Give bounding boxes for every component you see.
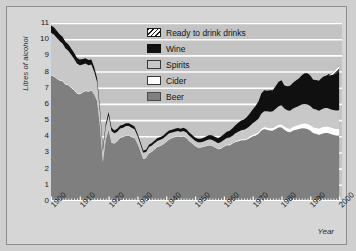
y-tick-label: 5 xyxy=(25,116,49,124)
y-tick-label: 11 xyxy=(25,19,49,27)
grey-swatch-icon xyxy=(147,92,161,101)
chart-legend: Ready to drink drinks Wine Spirits Cider… xyxy=(147,25,297,105)
legend-label: Beer xyxy=(166,92,184,102)
y-tick-label: 6 xyxy=(25,100,49,108)
legend-item-beer: Beer xyxy=(147,89,297,104)
x-axis-title: Year xyxy=(318,227,334,236)
legend-item-ready-to-drink-drinks: Ready to drink drinks xyxy=(147,25,297,40)
y-tick-label: 4 xyxy=(25,132,49,140)
hatched-swatch-icon xyxy=(147,28,161,37)
legend-item-wine: Wine xyxy=(147,41,297,56)
legend-item-cider: Cider xyxy=(147,73,297,88)
y-tick-label: 3 xyxy=(25,148,49,156)
legend-label: Ready to drink drinks xyxy=(166,28,246,38)
y-tick-label: 7 xyxy=(25,84,49,92)
y-tick-label: 1 xyxy=(25,181,49,189)
white-swatch-icon xyxy=(147,76,161,85)
black-swatch-icon xyxy=(147,44,161,53)
y-tick-label: 8 xyxy=(25,68,49,76)
y-tick-label: 2 xyxy=(25,165,49,173)
legend-label: Cider xyxy=(166,76,186,86)
y-tick-label: 0 xyxy=(25,197,49,205)
light-grey-swatch-icon xyxy=(147,60,161,69)
y-axis-ticks: 11109876543210 xyxy=(21,23,49,201)
chart-frame: Litres of alcohol 11109876543210 190019 xyxy=(6,6,347,245)
y-tick-label: 9 xyxy=(25,51,49,59)
x-axis-ticks: 1900191019201930194019501960197019801990… xyxy=(51,203,342,237)
legend-item-spirits: Spirits xyxy=(147,57,297,72)
legend-label: Spirits xyxy=(166,60,190,70)
y-tick-label: 10 xyxy=(25,35,49,43)
legend-label: Wine xyxy=(166,44,185,54)
